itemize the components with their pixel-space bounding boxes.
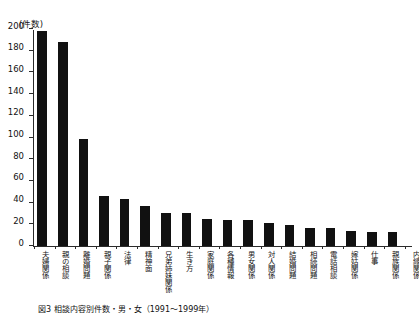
bar-slot xyxy=(137,29,158,246)
bar-slot xyxy=(34,29,55,246)
x-axis-category-label: 離婚問題 xyxy=(78,250,89,278)
figure-caption: 図3 相談内容別件数・男・女（1991〜1999年） xyxy=(38,304,398,313)
x-axis-tick xyxy=(158,246,159,249)
y-axis-tick-label: 160 xyxy=(8,65,24,74)
bar-slot xyxy=(261,29,282,246)
bar xyxy=(161,213,171,246)
x-axis-category-label: 男女関係 xyxy=(243,250,254,278)
bar xyxy=(140,206,150,246)
x-axis-tick xyxy=(281,246,282,249)
y-axis-tick: 140 xyxy=(29,93,33,94)
y-axis-tick-label: 140 xyxy=(8,86,24,95)
x-axis-tick xyxy=(199,246,200,249)
y-axis-tick: 160 xyxy=(29,71,33,72)
bar xyxy=(305,228,315,246)
bar xyxy=(99,196,109,246)
bar xyxy=(243,220,253,246)
y-axis-tick: 120 xyxy=(29,115,33,116)
y-axis-tick: 200 xyxy=(29,28,33,29)
x-axis-tick xyxy=(343,246,344,249)
x-axis-tick xyxy=(137,246,138,249)
x-axis-category-label: 親子関係 xyxy=(99,250,110,278)
bar xyxy=(223,220,233,246)
bar xyxy=(388,232,398,246)
x-axis-category-label: 親の相談 xyxy=(58,250,69,278)
x-axis-tick xyxy=(364,246,365,249)
x-axis-tick xyxy=(405,246,406,249)
y-axis-tick-label: 80 xyxy=(13,151,24,160)
x-axis-category-label: 各種情報 xyxy=(223,250,234,278)
bar xyxy=(79,139,89,246)
bar xyxy=(202,219,212,246)
x-axis-tick xyxy=(116,246,117,249)
x-axis-tick xyxy=(384,246,385,249)
y-axis-tick-label: 120 xyxy=(8,108,24,117)
x-axis-tick xyxy=(34,246,35,249)
y-axis-tick: 60 xyxy=(29,180,33,181)
y-axis-tick: 100 xyxy=(29,137,33,138)
x-axis-category-label: 内縁関係 xyxy=(408,250,419,278)
x-axis-tick xyxy=(240,246,241,249)
bar xyxy=(346,231,356,246)
bar xyxy=(37,31,47,246)
x-axis-category-label: 生き方 xyxy=(181,250,192,271)
x-axis-category-label: 兄弟姉妹関係 xyxy=(161,250,172,292)
x-axis-tick xyxy=(261,246,262,249)
x-axis-category-label: 家庭関係 xyxy=(202,250,213,278)
bar-slot xyxy=(116,29,137,246)
bar-slot xyxy=(219,29,240,246)
bar xyxy=(58,42,68,246)
x-axis-category-label: 法律 xyxy=(120,250,131,264)
y-axis-tick-label: 20 xyxy=(13,217,24,226)
y-axis-tick: 180 xyxy=(29,50,33,51)
x-axis-category-label: 対人関係 xyxy=(264,250,275,278)
x-axis-category-label: 夫婦関係 xyxy=(37,250,48,278)
x-axis-category-label: 嫁姑関係 xyxy=(346,250,357,278)
bar-slot xyxy=(364,29,385,246)
bar-slot xyxy=(302,29,323,246)
bar xyxy=(285,225,295,246)
y-axis-tick: 0 xyxy=(29,245,33,246)
x-axis-tick xyxy=(302,246,303,249)
x-axis-tick xyxy=(178,246,179,249)
bar xyxy=(326,228,336,246)
bar-slot xyxy=(322,29,343,246)
y-axis-tick-label: 0 xyxy=(19,238,24,247)
bar xyxy=(264,223,274,246)
bar-slot xyxy=(158,29,179,246)
bar-slot xyxy=(178,29,199,246)
x-axis-line xyxy=(33,246,412,247)
y-axis-tick: 40 xyxy=(29,202,33,203)
x-axis-tick xyxy=(219,246,220,249)
bar xyxy=(182,213,192,246)
y-axis-tick-label: 100 xyxy=(8,130,24,139)
bar xyxy=(367,232,377,246)
x-axis-category-labels: 夫婦関係親の相談離婚問題親子関係法律精神面兄弟姉妹関係生き方家庭関係各種情報男女… xyxy=(34,250,414,302)
bar-slot xyxy=(96,29,117,246)
x-axis-tick xyxy=(75,246,76,249)
bar-chart-figure: (件数) 020406080100120140160180200 夫婦関係親の相… xyxy=(0,0,419,313)
x-axis-category-label: 精神面 xyxy=(140,250,151,271)
y-axis-tick-label: 40 xyxy=(13,195,24,204)
bar xyxy=(120,199,130,246)
bar-slot xyxy=(75,29,96,246)
bar-slot xyxy=(240,29,261,246)
plot-area: 020406080100120140160180200 xyxy=(33,24,413,247)
x-axis-category-label: 相続問題 xyxy=(305,250,316,278)
x-axis-tick xyxy=(55,246,56,249)
bar-series xyxy=(34,29,412,246)
bar-slot xyxy=(281,29,302,246)
y-axis-tick-label: 180 xyxy=(8,43,24,52)
y-axis-tick-label: 200 xyxy=(8,21,24,30)
y-axis-tick-label: 60 xyxy=(13,173,24,182)
x-axis-category-label: 仕事 xyxy=(367,250,378,264)
bar-slot xyxy=(384,29,405,246)
x-axis-category-label: 結婚問題 xyxy=(284,250,295,278)
y-axis-tick: 20 xyxy=(29,223,33,224)
x-axis-category-label: 電話相談 xyxy=(326,250,337,278)
x-axis-tick xyxy=(96,246,97,249)
x-axis-tick xyxy=(322,246,323,249)
bar-slot xyxy=(343,29,364,246)
y-axis-tick: 80 xyxy=(29,158,33,159)
x-axis-category-label: 親族関係 xyxy=(387,250,398,278)
